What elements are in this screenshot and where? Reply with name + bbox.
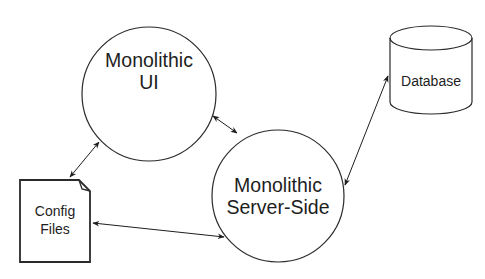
- database-cylinder-icon: [390, 26, 472, 114]
- architecture-diagram: Monolithic UI Monolithic Server-Side Dat…: [0, 0, 485, 279]
- edge-server-config: [93, 223, 224, 237]
- ui-node-label-line2: UI: [99, 72, 199, 94]
- ui-node-label-line1: Monolithic: [99, 50, 199, 72]
- config-node-label: Config Files: [20, 202, 90, 238]
- config-node-label-line2: Files: [20, 220, 90, 238]
- server-node-label-line1: Monolithic: [218, 175, 338, 197]
- ui-node-circle: [82, 27, 216, 161]
- server-node-label-line2: Server-Side: [218, 197, 338, 219]
- edge-ui-server: [213, 116, 237, 133]
- ui-node-label: Monolithic UI: [99, 50, 199, 94]
- server-node-label: Monolithic Server-Side: [218, 175, 338, 219]
- edge-server-database: [345, 76, 388, 185]
- database-node-label: Database: [391, 74, 471, 90]
- config-node-label-line1: Config: [20, 202, 90, 220]
- edge-ui-config: [70, 142, 99, 177]
